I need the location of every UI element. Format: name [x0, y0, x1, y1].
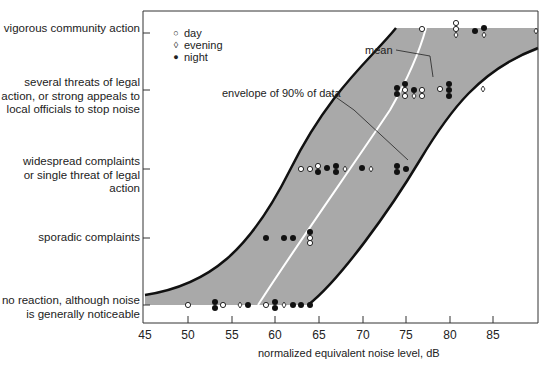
x-tick-50: 50 [181, 328, 194, 342]
envelope-band [145, 28, 538, 305]
legend-item-day: ○day [172, 27, 223, 39]
y-label-threats: several threats of legal action, or stro… [0, 76, 140, 117]
y-ticks [143, 33, 150, 305]
x-axis-label: normalized equivalent noise level, dB [258, 347, 440, 359]
envelope-annotation: envelope of 90% of data [222, 87, 341, 99]
x-tick-45: 45 [138, 328, 151, 342]
legend: ○day ◊evening ●night [172, 27, 223, 63]
x-tick-55: 55 [225, 328, 238, 342]
open-diamond-icon: ◊ [172, 39, 180, 51]
y-label-vigorous: vigorous community action [4, 22, 140, 36]
x-tick-80: 80 [443, 328, 456, 342]
mean-annotation: mean [365, 44, 393, 56]
x-tick-65: 65 [312, 328, 325, 342]
x-tick-70: 70 [356, 328, 369, 342]
y-label-widespread: widespread complaints or single threat o… [10, 155, 140, 196]
y-label-no-reaction: no reaction, although noise is generally… [0, 294, 140, 321]
x-tick-75: 75 [399, 328, 412, 342]
legend-item-evening: ◊evening [172, 39, 223, 51]
y-label-sporadic: sporadic complaints [38, 231, 140, 245]
x-tick-60: 60 [268, 328, 281, 342]
open-circle-icon: ○ [172, 27, 180, 39]
filled-circle-icon: ● [172, 51, 180, 63]
x-ticks [188, 316, 493, 323]
legend-item-night: ●night [172, 51, 223, 63]
x-tick-85: 85 [486, 328, 499, 342]
